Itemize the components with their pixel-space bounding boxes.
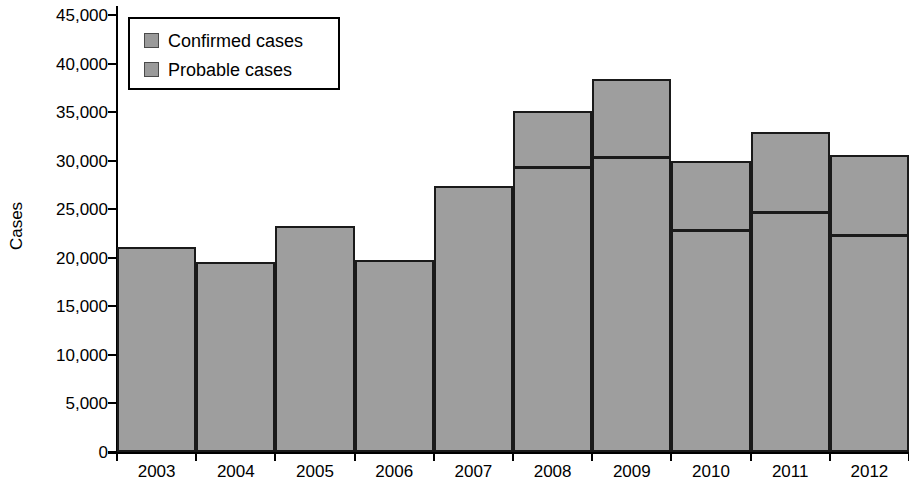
bar-2009 bbox=[592, 79, 671, 452]
x-tick-mark bbox=[591, 452, 593, 461]
y-axis-tick-labels: 05,00010,00015,00020,00025,00030,00035,0… bbox=[30, 0, 108, 489]
y-tick-label: 35,000 bbox=[36, 104, 108, 121]
y-tick-mark bbox=[108, 354, 117, 356]
y-tick-mark bbox=[108, 257, 117, 259]
bar-segment-divider bbox=[751, 211, 830, 214]
x-tick-label-2007: 2007 bbox=[433, 462, 513, 482]
y-tick-mark bbox=[108, 14, 117, 16]
x-tick-label-2004: 2004 bbox=[196, 462, 276, 482]
y-tick-mark bbox=[108, 451, 117, 453]
legend-label-probable: Probable cases bbox=[168, 61, 292, 79]
x-tick-mark bbox=[750, 452, 752, 461]
x-tick-mark bbox=[829, 452, 831, 461]
bar-2010 bbox=[671, 161, 750, 452]
y-tick-label: 40,000 bbox=[36, 55, 108, 72]
bar-2007 bbox=[434, 186, 513, 452]
legend-swatch-confirmed-icon bbox=[144, 33, 159, 48]
x-tick-mark bbox=[274, 452, 276, 461]
x-tick-mark bbox=[670, 452, 672, 461]
x-tick-label-2010: 2010 bbox=[671, 462, 751, 482]
y-axis-title-text: Cases bbox=[7, 202, 27, 250]
x-tick-label-2011: 2011 bbox=[750, 462, 830, 482]
x-tick-label-2005: 2005 bbox=[275, 462, 355, 482]
y-tick-mark bbox=[108, 402, 117, 404]
y-tick-label: 10,000 bbox=[36, 346, 108, 363]
y-tick-label: 5,000 bbox=[36, 395, 108, 412]
y-tick-mark bbox=[108, 111, 117, 113]
x-tick-label-2003: 2003 bbox=[117, 462, 197, 482]
x-tick-label-2009: 2009 bbox=[592, 462, 672, 482]
y-tick-label: 15,000 bbox=[36, 298, 108, 315]
bar-segment-divider bbox=[513, 166, 592, 169]
y-tick-mark bbox=[108, 208, 117, 210]
y-tick-mark bbox=[108, 63, 117, 65]
bar-2006 bbox=[355, 260, 434, 452]
bar-2003 bbox=[117, 247, 196, 452]
legend: Confirmed cases Probable cases bbox=[128, 17, 340, 90]
bar-chart: Cases 05,00010,00015,00020,00025,00030,0… bbox=[0, 0, 909, 489]
x-tick-mark bbox=[433, 452, 435, 461]
bar-segment-divider bbox=[830, 234, 909, 237]
y-axis-title: Cases bbox=[2, 0, 32, 452]
bar-2008 bbox=[513, 111, 592, 452]
x-tick-mark bbox=[195, 452, 197, 461]
x-tick-mark bbox=[512, 452, 514, 461]
y-tick-label: 25,000 bbox=[36, 201, 108, 218]
y-tick-mark bbox=[108, 305, 117, 307]
y-tick-label: 0 bbox=[36, 444, 108, 461]
legend-item: Probable cases bbox=[144, 55, 338, 84]
bar-segment-divider bbox=[671, 229, 750, 232]
legend-swatch-probable-icon bbox=[144, 62, 159, 77]
legend-label-confirmed: Confirmed cases bbox=[168, 32, 303, 50]
bar-segment-divider bbox=[592, 156, 671, 159]
bar-2004 bbox=[196, 262, 275, 452]
x-tick-label-2008: 2008 bbox=[513, 462, 593, 482]
legend-item: Confirmed cases bbox=[144, 26, 338, 55]
y-tick-label: 30,000 bbox=[36, 152, 108, 169]
x-tick-label-2006: 2006 bbox=[354, 462, 434, 482]
x-tick-label-2012: 2012 bbox=[829, 462, 909, 482]
x-tick-mark bbox=[354, 452, 356, 461]
bar-2011 bbox=[751, 132, 830, 452]
bar-2005 bbox=[275, 226, 354, 452]
x-tick-mark-origin bbox=[116, 452, 118, 461]
bar-2012 bbox=[830, 155, 909, 452]
y-tick-label: 45,000 bbox=[36, 7, 108, 24]
y-tick-mark bbox=[108, 160, 117, 162]
y-tick-label: 20,000 bbox=[36, 249, 108, 266]
